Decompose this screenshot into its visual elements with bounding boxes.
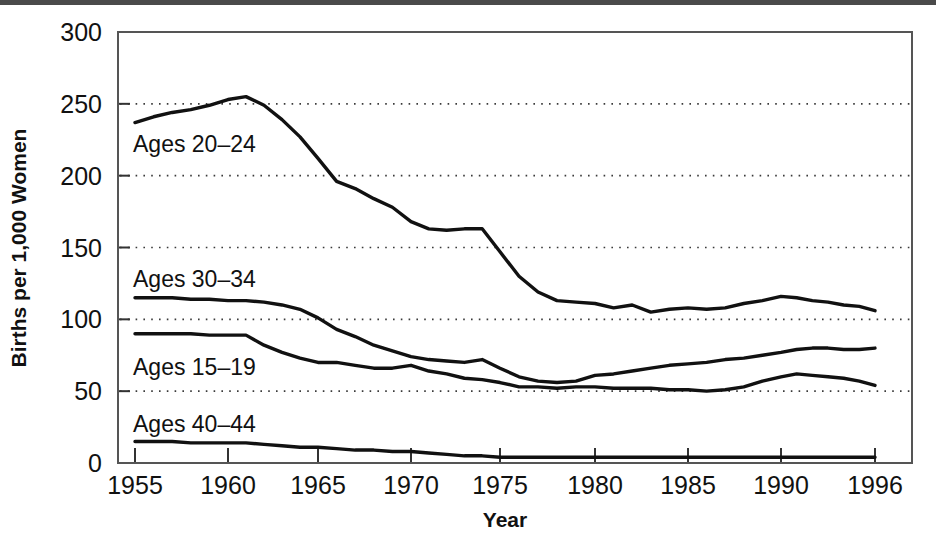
x-tick-label: 1960 bbox=[200, 471, 256, 499]
x-tick-label: 1996 bbox=[847, 471, 903, 499]
y-tickmarks-group bbox=[118, 104, 130, 391]
series-label: Ages 40–44 bbox=[133, 411, 256, 437]
series-label: Ages 15–19 bbox=[133, 354, 256, 380]
chart-figure: 050100150200250300 195519601965197019751… bbox=[0, 0, 936, 549]
y-tick-label: 300 bbox=[60, 18, 102, 46]
y-tick-label: 50 bbox=[74, 377, 102, 405]
y-tick-label: 100 bbox=[60, 305, 102, 333]
y-tick-label: 150 bbox=[60, 234, 102, 262]
line-chart-canvas: 050100150200250300 195519601965197019751… bbox=[0, 0, 936, 549]
x-tickmarks-group bbox=[135, 448, 875, 463]
y-tick-label: 250 bbox=[60, 90, 102, 118]
x-tick-label: 1955 bbox=[107, 471, 163, 499]
series-label: Ages 30–34 bbox=[133, 266, 256, 292]
x-tick-labels-group: 195519601965197019751980198519901996 bbox=[107, 471, 903, 499]
x-tick-label: 1970 bbox=[383, 471, 439, 499]
x-tick-label: 1985 bbox=[660, 471, 716, 499]
x-axis-title: Year bbox=[483, 508, 527, 531]
y-axis-title: Births per 1,000 Women bbox=[7, 129, 30, 368]
x-tick-label: 1980 bbox=[567, 471, 623, 499]
x-tick-label: 1975 bbox=[472, 471, 528, 499]
y-tick-labels-group: 050100150200250300 bbox=[60, 18, 102, 477]
series-label: Ages 20–24 bbox=[133, 131, 256, 157]
data-line-ages-40-44 bbox=[135, 441, 875, 457]
y-tick-label: 200 bbox=[60, 162, 102, 190]
y-tick-label: 0 bbox=[88, 449, 102, 477]
x-tick-label: 1990 bbox=[753, 471, 809, 499]
x-tick-label: 1965 bbox=[290, 471, 346, 499]
